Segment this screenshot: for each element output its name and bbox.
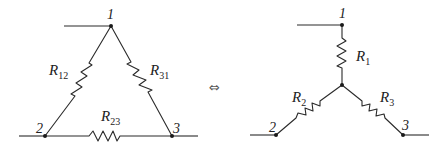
delta-r12-label: R12	[48, 62, 68, 81]
resistor-r3	[342, 85, 403, 135]
star-center-node	[340, 83, 344, 87]
delta-r23-label: R23	[100, 108, 120, 127]
delta-node-2-label: 2	[36, 121, 43, 136]
star-node-3	[401, 133, 405, 137]
delta-node-2	[43, 134, 47, 138]
delta-network: 1 2 3 R12 R31 R23	[19, 7, 198, 141]
resistor-r1	[337, 25, 346, 85]
delta-node-1-label: 1	[107, 7, 114, 22]
star-r1-label: R1	[355, 48, 370, 67]
delta-node-3-label: 3	[172, 121, 180, 136]
delta-star-transformation-diagram: 1 2 3 R12 R31 R23 ⇔	[0, 0, 448, 149]
star-node-2-label: 2	[269, 120, 276, 135]
resistor-r23	[45, 131, 172, 141]
equivalence-arrow-icon: ⇔	[209, 80, 220, 95]
star-network: 1 2 3 R1 R2 R3	[250, 6, 429, 137]
star-node-1-label: 1	[339, 6, 346, 21]
star-node-1	[340, 23, 344, 27]
delta-r31-label: R31	[149, 62, 169, 81]
star-r2-label: R2	[291, 89, 306, 108]
star-r3-label: R3	[379, 89, 394, 108]
star-node-3-label: 3	[401, 118, 409, 133]
resistor-r2	[276, 85, 342, 135]
delta-node-1	[109, 24, 113, 28]
